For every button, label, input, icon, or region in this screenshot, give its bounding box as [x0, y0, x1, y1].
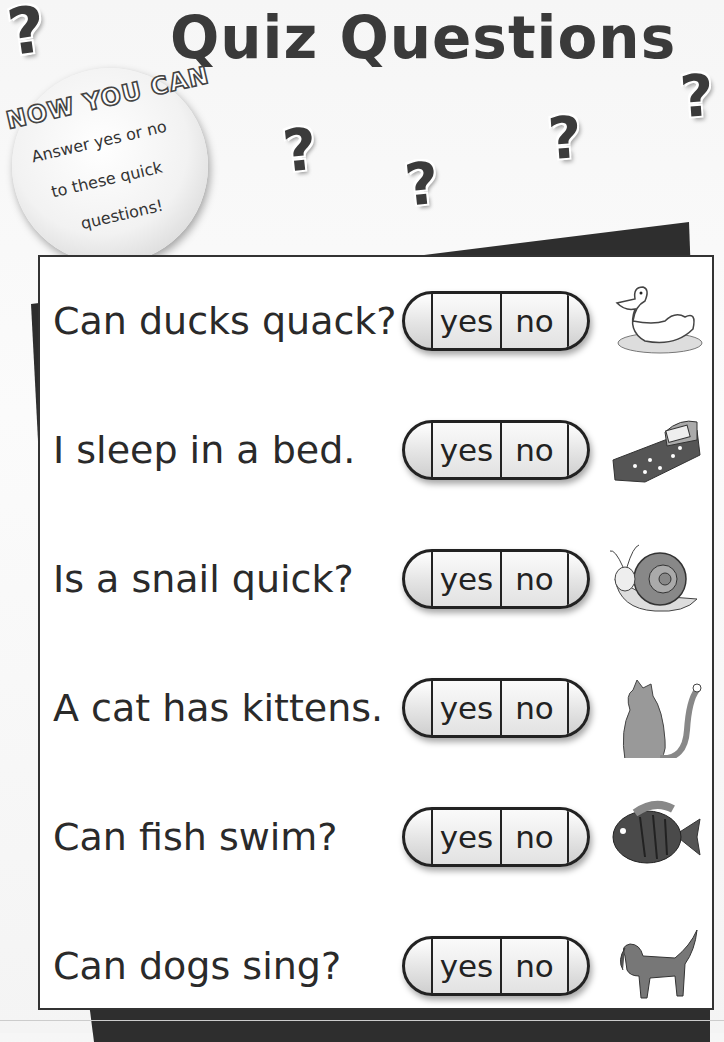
- question-text: Can ducks quack?: [53, 299, 397, 343]
- yes-button[interactable]: yes: [431, 810, 500, 864]
- yes-button[interactable]: yes: [431, 294, 500, 348]
- question-text: Is a snail quick?: [53, 557, 354, 601]
- answer-pill: yes no: [402, 549, 590, 609]
- yes-button[interactable]: yes: [431, 423, 500, 477]
- no-button[interactable]: no: [500, 939, 569, 993]
- answer-pill: yes no: [402, 291, 590, 351]
- question-text: Can dogs sing?: [53, 944, 341, 988]
- no-button[interactable]: no: [500, 294, 569, 348]
- question-mark-icon: ?: [3, 0, 50, 70]
- quiz-row: Can dogs sing? yes no: [40, 930, 712, 1030]
- answer-pill: yes no: [402, 420, 590, 480]
- quiz-row: I sleep in a bed. yes no: [40, 414, 712, 514]
- page-title: Quiz Questions: [170, 4, 676, 72]
- question-text: Can fish swim?: [53, 815, 338, 859]
- answer-pill: yes no: [402, 807, 590, 867]
- question-mark-icon: ?: [402, 148, 443, 219]
- quiz-row: Can ducks quack? yes no: [40, 285, 712, 385]
- answer-pill: yes no: [402, 678, 590, 738]
- divider: [0, 1020, 724, 1021]
- cat-icon: [605, 662, 705, 758]
- no-button[interactable]: no: [500, 423, 569, 477]
- fish-icon: [605, 797, 705, 877]
- yes-button[interactable]: yes: [431, 552, 500, 606]
- quiz-row: A cat has kittens. yes no: [40, 672, 712, 772]
- quiz-row: Can fish swim? yes no: [40, 801, 712, 901]
- quiz-row: Is a snail quick? yes no: [40, 543, 712, 643]
- bed-icon: [605, 410, 705, 490]
- duck-icon: [605, 281, 705, 361]
- yes-button[interactable]: yes: [431, 939, 500, 993]
- question-text: I sleep in a bed.: [53, 428, 355, 472]
- question-text: A cat has kittens.: [53, 686, 383, 730]
- answer-pill: yes no: [402, 936, 590, 996]
- no-button[interactable]: no: [500, 552, 569, 606]
- question-mark-icon: ?: [546, 103, 584, 173]
- no-button[interactable]: no: [500, 810, 569, 864]
- snail-icon: [605, 539, 705, 619]
- no-button[interactable]: no: [500, 681, 569, 735]
- question-mark-icon: ?: [678, 61, 716, 131]
- dog-icon: [605, 926, 705, 1006]
- quiz-card: Can ducks quack? yes no I sleep in a bed…: [38, 255, 714, 1010]
- question-mark-icon: ?: [280, 114, 321, 185]
- yes-button[interactable]: yes: [431, 681, 500, 735]
